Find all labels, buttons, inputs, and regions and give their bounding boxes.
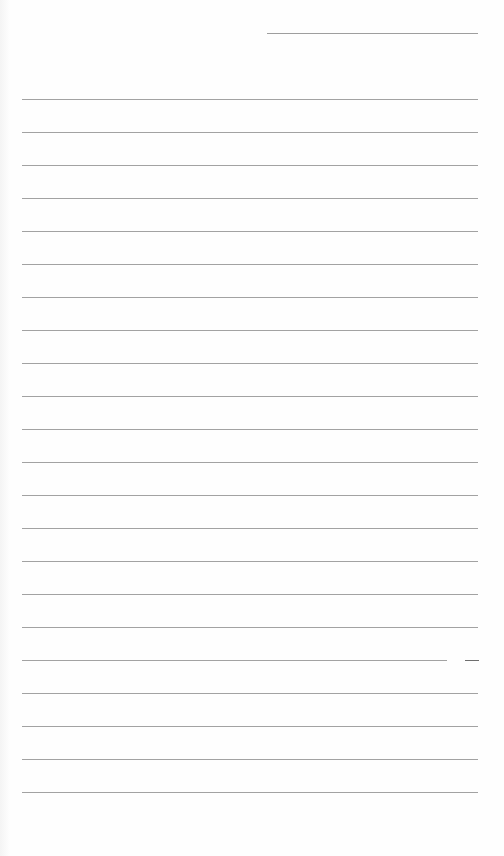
ruled-line <box>22 429 478 430</box>
ruled-line <box>22 495 478 496</box>
name-line <box>267 33 478 34</box>
ruled-line <box>22 726 478 727</box>
ruled-line <box>22 363 478 364</box>
scan-edge-shade <box>0 0 10 856</box>
ruled-line <box>22 297 478 298</box>
ruled-line <box>22 693 478 694</box>
ruled-line <box>22 231 478 232</box>
ruled-line-segment <box>465 660 479 661</box>
ruled-line <box>22 792 478 793</box>
ruled-line-segment <box>22 660 447 661</box>
ruled-line <box>22 165 478 166</box>
ruled-line <box>22 198 478 199</box>
ruled-line <box>22 330 478 331</box>
ruled-line <box>22 132 478 133</box>
ruled-line <box>22 528 478 529</box>
ruled-line <box>22 264 478 265</box>
ruled-line <box>22 627 478 628</box>
ruled-line <box>22 99 478 100</box>
lined-paper-page <box>0 0 504 856</box>
ruled-line <box>22 594 478 595</box>
ruled-line <box>22 759 478 760</box>
ruled-line <box>22 396 478 397</box>
ruled-line <box>22 561 478 562</box>
ruled-line <box>22 462 478 463</box>
